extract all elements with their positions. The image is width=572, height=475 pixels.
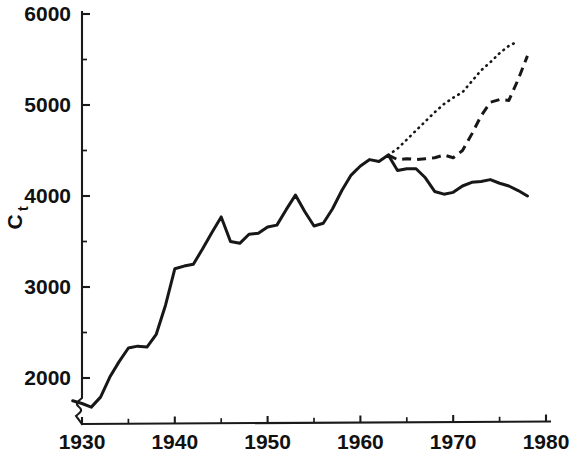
x-tick-label: 1950 bbox=[244, 430, 291, 453]
y-tick-label: 4000 bbox=[24, 184, 71, 207]
axis-ticks bbox=[82, 14, 546, 424]
x-tick-label: 1980 bbox=[523, 430, 570, 453]
chart-figure: 2000300040005000600019301940195019601970… bbox=[0, 0, 572, 475]
y-tick-label: 6000 bbox=[24, 2, 71, 25]
x-tick-label: 1930 bbox=[59, 430, 106, 453]
y-tick-label: 3000 bbox=[24, 275, 71, 298]
y-tick-label: 2000 bbox=[24, 366, 71, 389]
series-line-dashed bbox=[388, 56, 527, 160]
y-tick-label: 5000 bbox=[24, 93, 71, 116]
y-axis-title-text: C bbox=[3, 214, 26, 229]
series-line-solid bbox=[73, 155, 528, 407]
line-chart-canvas: 2000300040005000600019301940195019601970… bbox=[0, 0, 572, 475]
y-axis-title: Ct bbox=[3, 206, 31, 230]
x-tick-label: 1960 bbox=[337, 430, 384, 453]
x-tick-label: 1970 bbox=[430, 430, 477, 453]
series-line-dotted bbox=[388, 41, 518, 155]
data-series bbox=[73, 41, 528, 407]
x-tick-label: 1940 bbox=[151, 430, 198, 453]
y-axis-title-subscript: t bbox=[15, 206, 31, 211]
